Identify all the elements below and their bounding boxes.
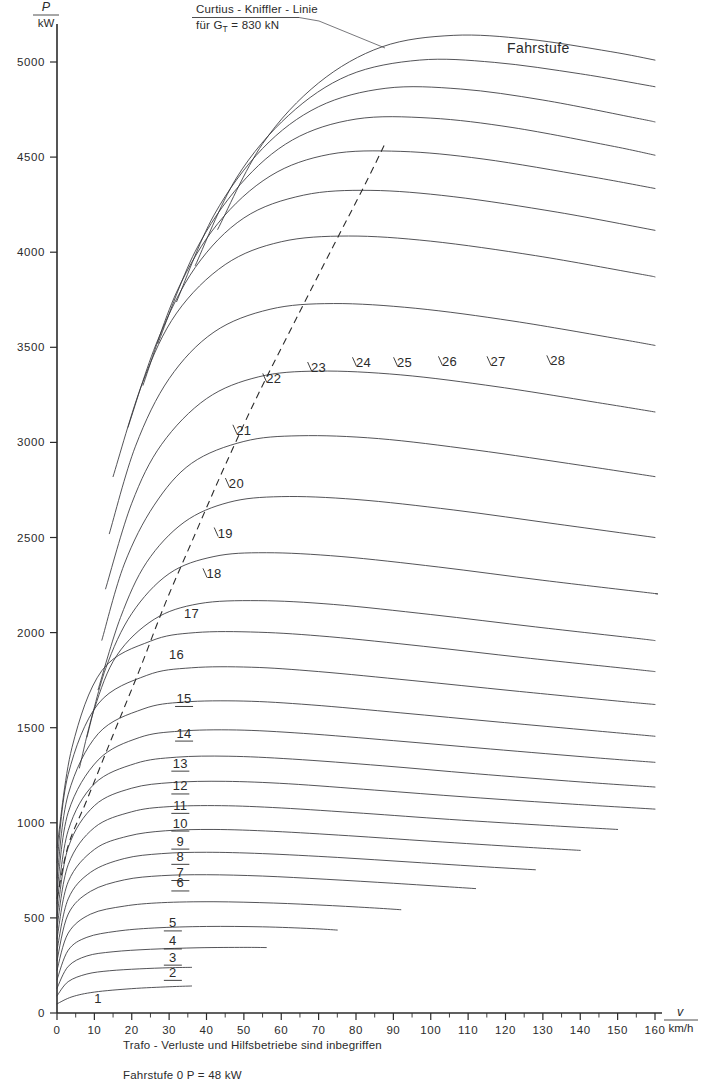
curve-label: 11 xyxy=(173,798,187,813)
y-tick-label: 2000 xyxy=(17,627,45,639)
ck-title-line2-prefix: für G xyxy=(196,19,223,31)
y-axis: 0500100015002000250030003500400045005000 xyxy=(17,56,57,1019)
fahrstufe-curve xyxy=(57,632,655,848)
y-axis-unit: kW xyxy=(38,17,55,29)
fahrstufe-curve xyxy=(128,190,655,427)
curve-label: 16 xyxy=(169,647,184,662)
fahrstufe-curve xyxy=(57,829,580,938)
footnote-trafo: Trafo - Verluste und Hilfsbetriebe sind … xyxy=(123,1039,382,1051)
x-tick-label: 130 xyxy=(532,1024,553,1036)
y-tick-label: 2500 xyxy=(17,532,45,544)
x-tick-label: 120 xyxy=(495,1024,516,1036)
fahrstufe-curve xyxy=(57,756,655,904)
curve-label: 19 xyxy=(218,526,233,541)
title-leader-line xyxy=(299,18,385,49)
y-tick-label: 1500 xyxy=(17,722,45,734)
fahrstufe-curve xyxy=(87,553,658,737)
curve-label: 1 xyxy=(94,991,102,1006)
x-tick-label: 50 xyxy=(237,1024,251,1036)
curve-label: 28 xyxy=(550,353,565,368)
fahrstufe-curve xyxy=(57,986,192,1004)
fahrstufe-curve xyxy=(177,87,655,302)
curve-label: 18 xyxy=(206,566,221,581)
x-tick-label: 140 xyxy=(570,1024,591,1036)
fahrstufe-curve xyxy=(57,667,655,863)
y-tick-label: 500 xyxy=(24,912,45,924)
fahrstufe-curve xyxy=(57,902,401,970)
fahrstufe-curve xyxy=(106,371,655,589)
x-tick-label: 160 xyxy=(645,1024,666,1036)
curve-label: 26 xyxy=(442,354,457,369)
fahrstufe-curve xyxy=(109,304,655,534)
fahrstufe-curve xyxy=(195,59,655,265)
chart-figure: Curtius - Kniffler - Linie für GT = 830 … xyxy=(0,0,704,1092)
y-tick-label: 1000 xyxy=(17,817,45,829)
curtius-kniffler-line xyxy=(57,142,386,899)
footnote-fahrstufe-zero: Fahrstufe 0 P = 48 kW xyxy=(123,1069,242,1081)
curve-label: 3 xyxy=(169,950,177,965)
curve-label: 14 xyxy=(177,726,192,741)
curve-family xyxy=(57,35,658,1004)
curve-label: 24 xyxy=(356,355,371,370)
curve-label: 2 xyxy=(169,965,177,980)
curve-label: 20 xyxy=(229,476,244,491)
curve-label: 21 xyxy=(236,423,251,438)
fahrstufe-curve xyxy=(158,117,655,344)
y-tick-label: 4000 xyxy=(17,246,45,258)
x-tick-label: 60 xyxy=(274,1024,288,1036)
y-tick-label: 5000 xyxy=(17,56,45,68)
x-tick-label: 90 xyxy=(386,1024,400,1036)
x-tick-label: 40 xyxy=(200,1024,214,1036)
x-axis-unit: km/h xyxy=(669,1022,694,1034)
y-tick-label: 3000 xyxy=(17,436,45,448)
curve-label: 4 xyxy=(169,933,177,948)
legend-label: Fahrstufe xyxy=(507,40,570,56)
x-tick-label: 30 xyxy=(162,1024,176,1036)
x-tick-label: 10 xyxy=(87,1024,101,1036)
fahrstufe-curve xyxy=(57,701,655,878)
x-tick-label: 150 xyxy=(607,1024,628,1036)
fahrstufe-curve xyxy=(57,730,655,891)
y-axis-symbol: P xyxy=(42,0,51,14)
x-tick-label: 0 xyxy=(54,1024,61,1036)
curve-label: 15 xyxy=(177,691,192,706)
fahrstufe-curve xyxy=(113,236,655,477)
x-tick-label: 20 xyxy=(125,1024,139,1036)
x-tick-label: 80 xyxy=(349,1024,363,1036)
fahrstufe-curve xyxy=(79,601,655,768)
ck-title-block: Curtius - Kniffler - Linie für GT = 830 … xyxy=(192,3,385,48)
fahrstufe-curve xyxy=(57,852,535,950)
x-axis-label: v km/h xyxy=(664,1005,698,1034)
x-tick-label: 100 xyxy=(420,1024,441,1036)
ck-title-line2: für GT = 830 kN xyxy=(196,19,279,34)
ck-title-line1: Curtius - Kniffler - Linie xyxy=(196,3,318,15)
y-axis-label: P kW xyxy=(33,0,59,29)
y-tick-label: 4500 xyxy=(17,151,45,163)
curve-label: 9 xyxy=(177,834,185,849)
curve-label: 5 xyxy=(169,915,177,930)
curve-label: 10 xyxy=(173,816,188,831)
ck-title-line2-suffix: = 830 kN xyxy=(228,19,279,31)
curve-label: 12 xyxy=(173,778,188,793)
curve-label: 25 xyxy=(397,355,412,370)
curve-label: 7 xyxy=(177,865,185,880)
fahrstufe-curve xyxy=(57,781,655,916)
x-axis-symbol: v xyxy=(677,1005,684,1019)
chart-canvas: Curtius - Kniffler - Linie für GT = 830 … xyxy=(0,0,704,1092)
x-tick-label: 70 xyxy=(312,1024,326,1036)
curve-label: 27 xyxy=(490,354,505,369)
curve-label: 8 xyxy=(177,849,185,864)
fahrstufe-curve xyxy=(57,806,618,928)
curve-label: 17 xyxy=(184,606,199,621)
y-tick-label: 3500 xyxy=(17,341,45,353)
x-axis: 0102030405060708090100110120130140150160 xyxy=(54,1013,666,1036)
curve-labels: 1234567891011121314151617181920212223242… xyxy=(94,353,565,1005)
curve-label: 23 xyxy=(311,360,326,375)
x-tick-label: 110 xyxy=(458,1024,478,1036)
curve-label: 22 xyxy=(266,371,281,386)
ck-dashed-path xyxy=(57,142,386,899)
curve-label: 13 xyxy=(173,756,188,771)
y-tick-label: 0 xyxy=(38,1007,45,1019)
